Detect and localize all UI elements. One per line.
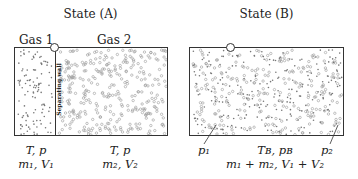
wall-hinge-icon bbox=[50, 43, 59, 52]
state-b-mv: m₁ + m₂, V₁ + V₂ bbox=[220, 157, 330, 171]
separating-wall-label: Separating wall bbox=[55, 60, 62, 120]
gas2-tp: T, p bbox=[90, 143, 150, 157]
gas2-label: Gas 2 bbox=[97, 33, 131, 47]
state-a-container: Separating wall bbox=[14, 47, 168, 136]
state-a-particles bbox=[15, 48, 168, 136]
gas1-tp: T, p bbox=[10, 143, 62, 157]
p1-label: p₁ bbox=[196, 143, 212, 157]
gas2-props: T, p m₂, V₂ bbox=[90, 143, 150, 171]
gas1-mv: m₁, V₁ bbox=[10, 157, 62, 171]
gas2-mv: m₂, V₂ bbox=[90, 157, 150, 171]
gas1-label: Gas 1 bbox=[19, 33, 53, 47]
hinge-icon bbox=[226, 43, 235, 52]
state-b-props: Tʙ, pʙ m₁ + m₂, V₁ + V₂ bbox=[220, 143, 330, 171]
state-a-title: State (A) bbox=[14, 7, 167, 21]
state-b-title: State (B) bbox=[189, 7, 344, 21]
state-b-container bbox=[189, 47, 344, 136]
state-b-tp: Tʙ, pʙ bbox=[220, 143, 330, 157]
gas1-props: T, p m₁, V₁ bbox=[10, 143, 62, 171]
state-b-particles bbox=[190, 48, 344, 136]
